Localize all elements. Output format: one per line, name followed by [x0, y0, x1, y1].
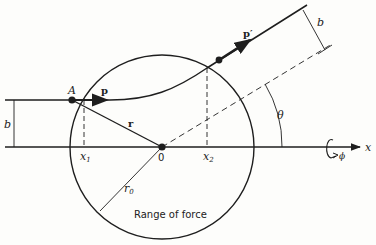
label-position-vector: r	[128, 118, 134, 129]
scattering-diagram: A p p′ r b b θ x1 x2 0 r0 x ϕ Range of f…	[0, 0, 376, 245]
label-x-axis: x	[365, 141, 372, 154]
label-momentum-in: p	[101, 85, 108, 96]
momentum-out-arrow	[219, 40, 250, 60]
label-x1: x1	[80, 150, 91, 164]
label-range-of-force: Range of force	[134, 209, 207, 220]
azimuth-arrowhead-icon	[333, 153, 338, 158]
label-impact-right: b	[317, 16, 324, 29]
position-vector-line	[72, 100, 162, 147]
label-impact-left: b	[4, 118, 11, 131]
label-radius: r0	[124, 182, 134, 196]
particle-trajectory	[5, 5, 307, 100]
label-momentum-out: p′	[243, 28, 253, 39]
exit-point-dot	[216, 57, 223, 64]
impact-param-right-tick	[318, 45, 332, 54]
label-azimuth: ϕ	[339, 151, 345, 161]
label-theta: θ	[277, 109, 284, 122]
asymptote-dashed-line	[162, 44, 332, 147]
label-point-a: A	[67, 84, 76, 97]
azimuth-rotation-icon	[327, 139, 336, 158]
label-x2: x2	[203, 150, 214, 164]
label-origin: 0	[158, 152, 164, 163]
radius-line	[100, 147, 162, 211]
